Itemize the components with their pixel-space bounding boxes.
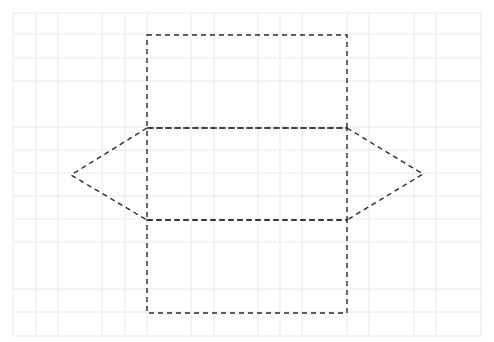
prism-net: [71, 35, 423, 313]
middle-rectangle: [147, 128, 347, 220]
left-triangle: [71, 128, 147, 220]
bottom-rectangle: [147, 220, 347, 313]
grid-paper: [13, 13, 481, 336]
right-triangle: [347, 128, 423, 220]
diagram-svg: [0, 0, 494, 342]
prism-net-diagram: [0, 0, 494, 342]
